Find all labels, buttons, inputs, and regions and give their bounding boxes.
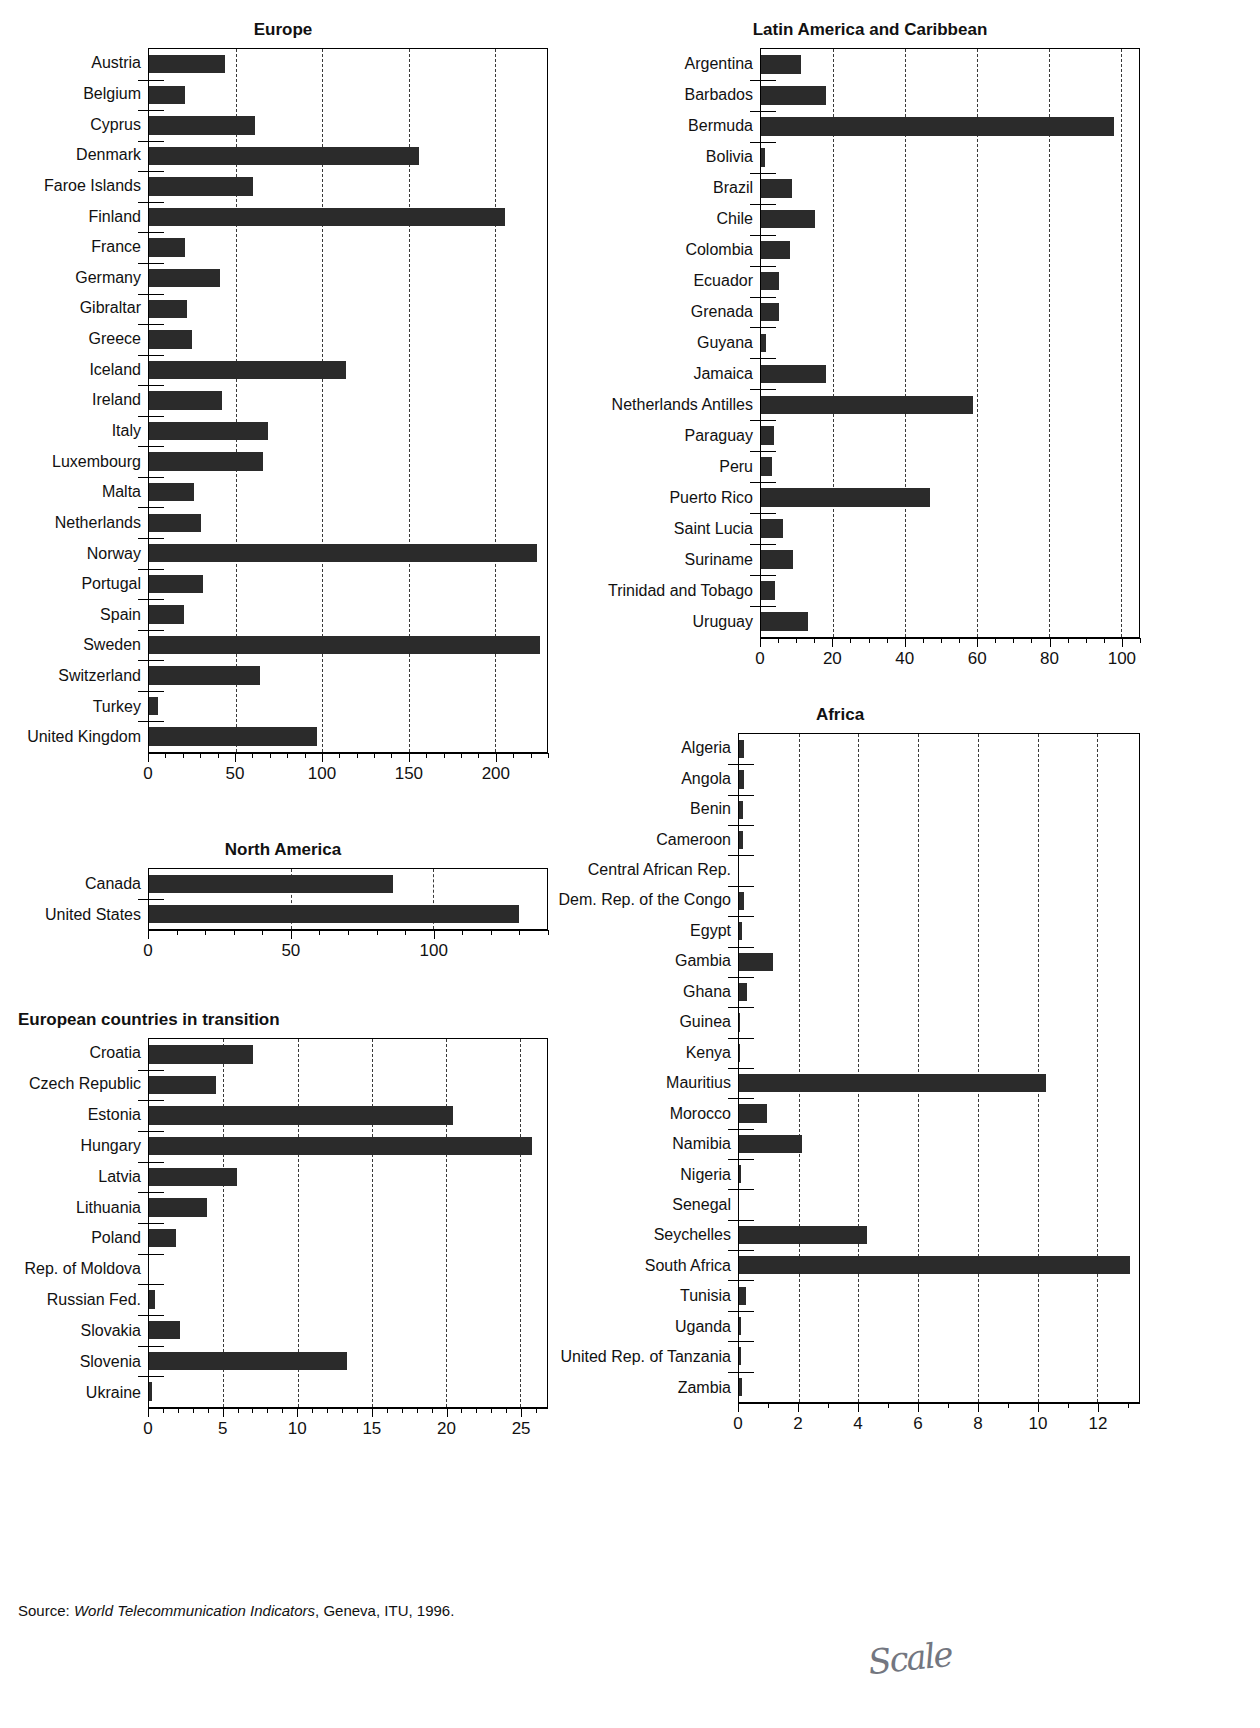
axis-minor-tick [796, 638, 797, 643]
axis-minor-tick [887, 638, 888, 643]
category-label: Malta [18, 477, 141, 508]
bar [149, 1382, 152, 1400]
category-label: Morocco [540, 1098, 731, 1128]
category-labels-africa: AlgeriaAngolaBeninCameroonCentral Africa… [540, 733, 738, 1403]
bar-row [739, 764, 1139, 794]
bar-row [149, 660, 547, 691]
axis-minor-tick [339, 753, 340, 758]
bar [149, 238, 185, 256]
bar [761, 272, 779, 291]
bar [149, 330, 192, 348]
axis-minor-tick [814, 638, 815, 643]
category-label: Iceland [18, 354, 141, 385]
axis-minor-tick [327, 1408, 328, 1413]
axis-major-tick [291, 930, 292, 939]
panel-european-transition: European countries in transition Croatia… [18, 1010, 548, 1442]
axis-tick-label: 0 [733, 1414, 742, 1434]
bar-row [739, 1159, 1139, 1189]
axis-minor-tick [491, 1408, 492, 1413]
axis-minor-tick [476, 1408, 477, 1413]
axis-minor-tick [405, 930, 406, 935]
axis-major-tick [978, 1403, 979, 1412]
axis-major-tick [322, 753, 323, 762]
category-label: Denmark [18, 140, 141, 171]
axis-tick-label: 2 [793, 1414, 802, 1434]
category-label: Tunisia [540, 1281, 731, 1311]
axis-minor-tick [461, 1408, 462, 1413]
bar-row [149, 416, 547, 447]
axis-tick-label: 150 [395, 764, 423, 784]
axis-major-tick [447, 1408, 448, 1417]
category-label: Algeria [540, 733, 731, 763]
bar [149, 1076, 216, 1094]
category-label: United Rep. of Tanzania [540, 1342, 731, 1372]
axis-major-tick [297, 1408, 298, 1417]
axis-minor-tick [1008, 1403, 1009, 1408]
category-label: Switzerland [18, 661, 141, 692]
bar [149, 208, 505, 226]
category-label: Sweden [18, 630, 141, 661]
bar [761, 210, 815, 229]
bar [739, 953, 773, 971]
axis-minor-tick [270, 753, 271, 758]
bar-row [761, 575, 1139, 606]
axis-major-tick [409, 753, 410, 762]
bar-row [739, 1220, 1139, 1250]
axis-minor-tick [1068, 1403, 1069, 1408]
panel-north-america: North America CanadaUnited States 050100 [18, 840, 548, 964]
category-label: Slovenia [18, 1346, 141, 1377]
axis-tick-label: 40 [895, 649, 914, 669]
category-label: Angola [540, 763, 731, 793]
category-label: Gambia [540, 946, 731, 976]
bar-row [761, 389, 1139, 420]
axis-minor-tick [218, 753, 219, 758]
category-label: Dem. Rep. of the Congo [540, 885, 731, 915]
bar-row [149, 141, 547, 172]
panel-title-north-america: North America [18, 840, 548, 860]
bar [761, 55, 801, 74]
axis-major-tick [434, 930, 435, 939]
bar-row [149, 691, 547, 722]
bar-row [739, 1189, 1139, 1219]
axis-minor-tick [1140, 638, 1141, 643]
bar-row [149, 110, 547, 141]
bar-row [739, 855, 1139, 885]
axis-minor-tick [342, 1408, 343, 1413]
bar-row [149, 324, 547, 355]
category-label: Ireland [18, 385, 141, 416]
bar [149, 1352, 347, 1370]
category-label: Croatia [18, 1038, 141, 1069]
bar-row [761, 204, 1139, 235]
axis-minor-tick [536, 1408, 537, 1413]
axis-minor-tick [506, 1408, 507, 1413]
bar [149, 636, 540, 654]
bar-row [761, 451, 1139, 482]
bar [739, 1347, 741, 1365]
category-labels-latin-america: ArgentinaBarbadosBermudaBoliviaBrazilChi… [600, 48, 760, 638]
bar [739, 1044, 740, 1062]
bar-row [149, 355, 547, 386]
axis-major-tick [918, 1403, 919, 1412]
axis-minor-tick [995, 638, 996, 643]
bar-row [149, 294, 547, 325]
bar-row [149, 869, 547, 899]
category-label: Brazil [600, 172, 753, 203]
axis-minor-tick [531, 753, 532, 758]
bar-row [761, 49, 1139, 80]
category-label: Seychelles [540, 1220, 731, 1250]
x-axis-africa: 024681012 [738, 1403, 1140, 1437]
axis-tick-label: 50 [225, 764, 244, 784]
category-label: Uganda [540, 1312, 731, 1342]
bar [149, 575, 203, 593]
category-label: South Africa [540, 1251, 731, 1281]
axis-minor-tick [205, 930, 206, 935]
axis-minor-tick [262, 930, 263, 935]
axis-minor-tick [234, 930, 235, 935]
axis-minor-tick [312, 1408, 313, 1413]
bar-row [739, 1129, 1139, 1159]
category-label: Cyprus [18, 109, 141, 140]
category-label: Cameroon [540, 824, 731, 854]
axis-minor-tick [1068, 638, 1069, 643]
panel-title-latin-america: Latin America and Caribbean [600, 20, 1140, 40]
bar [761, 550, 793, 569]
